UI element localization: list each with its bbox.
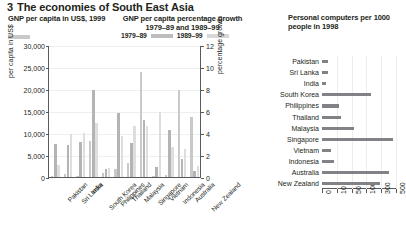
legend-swatch-1979-89 <box>151 34 173 38</box>
right-panel-heading: Personal computers per 1000 people in 19… <box>288 14 392 31</box>
computers-bar <box>322 116 341 119</box>
computers-bar <box>322 160 334 163</box>
figure-title-text: The economies of South East Asia <box>17 1 194 13</box>
computers-row: Indonesia <box>322 156 396 167</box>
right-y-axis-tick-label: 8 <box>206 87 210 94</box>
computers-bar <box>322 171 389 174</box>
computers-bar <box>322 182 380 185</box>
left-y-axis-title: per capita in US$ <box>7 24 14 78</box>
bar-group <box>64 46 73 178</box>
computers-axis-tick-label: 500 <box>399 182 406 194</box>
computers-row-label: South Korea <box>280 89 319 100</box>
computers-row-label: Malaysia <box>291 123 319 134</box>
x-axis-line <box>49 177 201 178</box>
computers-row-label: Pakistan <box>292 56 319 67</box>
right-y-axis-tick <box>201 68 204 69</box>
computers-bar <box>322 82 326 85</box>
right-y-axis-tick <box>201 178 204 179</box>
computers-row: Malaysia <box>322 123 396 134</box>
bar-group <box>102 46 111 178</box>
y-axis-tick-label: 20,000 <box>24 87 45 94</box>
right-y-axis-tick-label: 12 <box>206 43 214 50</box>
computers-row-label: Vietnam <box>293 145 319 156</box>
right-y-axis-title: percentage growth <box>216 16 223 74</box>
bar-group <box>76 46 85 178</box>
computers-row-label: Australia <box>292 167 319 178</box>
combined-bar-chart: 05,00010,00015,00020,00025,00030,000 <box>48 46 201 178</box>
computers-row: India <box>322 78 396 89</box>
computers-bar <box>322 127 354 130</box>
computers-bar <box>322 104 339 107</box>
computers-row: South Korea <box>322 89 396 100</box>
personal-computers-chart: 01050100300500 PakistanSri LankaIndiaSou… <box>262 44 394 240</box>
y-axis-tick <box>46 46 49 47</box>
y-axis-tick-label: 30,000 <box>24 43 45 50</box>
y-axis-tick <box>46 178 49 179</box>
x-axis-label: India <box>89 181 104 196</box>
y-axis-tick <box>46 68 49 69</box>
bar-group <box>114 46 123 178</box>
bar-growth-1989-99 <box>171 147 174 178</box>
computers-axis-tick-label: 0 <box>325 190 332 194</box>
y-axis-tick-label: 15,000 <box>24 109 45 116</box>
bar-group <box>165 46 174 178</box>
right-y-axis-tick <box>201 156 204 157</box>
computers-row-label: Singapore <box>287 134 319 145</box>
bar-group <box>89 46 98 178</box>
left-panel-heading: GNP per capita in US$, 1999 <box>8 15 113 24</box>
bar-growth-1989-99 <box>146 126 149 178</box>
computers-bar <box>322 60 328 63</box>
plot-area <box>49 46 201 178</box>
bar-growth-1989-99 <box>95 123 98 178</box>
right-y-axis-tick-label: 4 <box>206 131 210 138</box>
middle-panel-heading: GNP per capita percentage growth 1979–89… <box>120 15 245 32</box>
computers-axis-tick <box>352 189 353 193</box>
y-axis-tick <box>46 134 49 135</box>
bar-growth-1989-99 <box>83 133 86 178</box>
computers-row-label: Indonesia <box>289 156 319 167</box>
y-axis-tick-label: 5,000 <box>27 153 45 160</box>
legend-label-1979-89: 1979–89 <box>121 32 147 39</box>
bar-growth-1989-99 <box>184 149 187 178</box>
y-axis-tick-label: 10,000 <box>24 131 45 138</box>
computers-bar <box>322 138 393 141</box>
computers-axis-tick <box>322 189 323 193</box>
legend-label-1989-99: 1989–99 <box>177 32 203 39</box>
y-axis-tick <box>46 156 49 157</box>
computers-row-label: Sri Lanka <box>289 67 319 78</box>
figure-title: 3The economies of South East Asia <box>7 1 194 13</box>
right-y-axis-tick-label: 2 <box>206 153 210 160</box>
computers-bar <box>322 71 328 74</box>
computers-row: New Zealand <box>322 178 396 189</box>
computers-bar <box>322 93 371 96</box>
right-y-axis-tick-label: 0 <box>206 175 210 182</box>
computers-axis-tick <box>381 189 382 193</box>
computers-row-label: Thailand <box>292 112 319 123</box>
computers-row-label: New Zealand <box>278 178 319 189</box>
bar-growth-1989-99 <box>159 112 162 178</box>
y-axis-tick <box>46 112 49 113</box>
computers-row: Thailand <box>322 112 396 123</box>
computers-row-label: Philippines <box>285 100 319 111</box>
figure-number: 3 <box>7 1 13 13</box>
bar-growth-1989-99 <box>133 126 136 178</box>
bar-group <box>140 46 149 178</box>
computers-axis-tick <box>396 189 397 193</box>
right-y-axis-line: 024681012 <box>200 46 201 178</box>
computers-row: Vietnam <box>322 145 396 156</box>
bar-group <box>51 46 60 178</box>
y-axis-tick <box>46 90 49 91</box>
right-y-axis-tick <box>201 112 204 113</box>
right-y-axis-tick <box>201 134 204 135</box>
right-y-axis-tick-label: 10 <box>206 65 214 72</box>
bar-growth-1989-99 <box>121 136 124 178</box>
computers-gridline <box>396 56 397 189</box>
computers-row: Pakistan <box>322 56 396 67</box>
computers-axis-tick <box>366 189 367 193</box>
right-y-axis-tick <box>201 90 204 91</box>
computers-row: Philippines <box>322 100 396 111</box>
computers-row-label: India <box>304 78 319 89</box>
bar-group <box>152 46 161 178</box>
right-y-axis-tick-label: 6 <box>206 109 210 116</box>
